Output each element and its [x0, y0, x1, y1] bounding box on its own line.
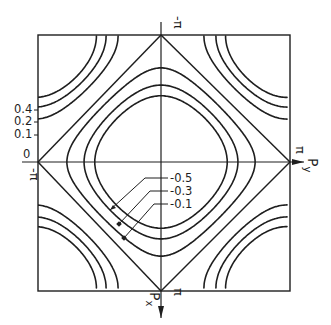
contour-label-minus-0.5: -0.5 — [170, 171, 192, 185]
contour-label-minus-0.1: -0.1 — [170, 197, 192, 211]
contour-label-0: 0 — [23, 147, 30, 161]
brillouin-zone-boundary — [38, 35, 290, 291]
px-axis-label: Px — [144, 292, 163, 306]
contour-label-0.2: 0.2 — [14, 114, 32, 128]
right-pi-label: π — [293, 146, 308, 154]
py-axis-arrow-icon — [292, 159, 304, 165]
py-axis-label: Py — [302, 158, 321, 172]
contour-diagram: -π π π -π Py Px 0.4 0.2 0.1 0 -0.5 -0.3 … — [0, 0, 331, 325]
left-minus-pi-label: -π — [27, 168, 42, 181]
contour-label-0.1: 0.1 — [14, 127, 32, 141]
top-minus-pi-label: -π — [171, 16, 186, 29]
px-axis-arrow-icon — [158, 306, 164, 318]
bottom-pi-label: π — [171, 288, 186, 296]
contour-label-minus-0.3: -0.3 — [170, 184, 192, 198]
zero-contour-ur — [161, 35, 290, 162]
